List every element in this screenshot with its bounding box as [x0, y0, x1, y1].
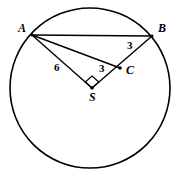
vertex-dot-c: [118, 66, 122, 70]
point-label-b: B: [157, 21, 166, 35]
segment-radius-sa: [32, 35, 92, 88]
geometry-canvas: A B C S 6 3 3: [0, 0, 180, 174]
point-label-c: C: [126, 63, 135, 77]
circle-outline: [10, 8, 170, 168]
point-label-a: A: [17, 21, 26, 35]
length-label-sa: 6: [54, 61, 60, 73]
point-label-s: S: [89, 90, 96, 104]
length-label-sc: 3: [99, 62, 105, 74]
vertex-dot-a: [31, 34, 34, 37]
segment-chord-ab: [32, 35, 152, 36]
vertex-dot-b: [151, 35, 154, 38]
segment-a-to-c: [32, 35, 120, 68]
length-label-cb: 3: [127, 39, 133, 51]
geometry-figure: A B C S 6 3 3: [0, 0, 180, 174]
